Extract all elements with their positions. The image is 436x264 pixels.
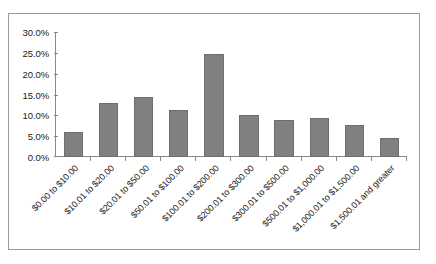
bar-slot: [231, 32, 266, 157]
bar: [169, 110, 188, 158]
bar-slot: [126, 32, 161, 157]
bar: [380, 138, 399, 157]
y-axis-tick-label: 25.0%: [23, 47, 49, 58]
bar: [99, 103, 118, 157]
y-axis-tick-label: 5.0%: [28, 131, 49, 142]
bar-slot: [302, 32, 337, 157]
y-axis-tick-label: 20.0%: [23, 68, 49, 79]
x-axis-label-cell: $1,500.01 and greater: [372, 161, 407, 249]
y-axis: 0.0%5.0%10.0%15.0%20.0%25.0%30.0%: [8, 32, 54, 157]
bar: [345, 125, 364, 157]
bar: [64, 132, 83, 157]
x-axis-labels: $0.00 to $10.00$10.01 to $20.00$20.01 to…: [56, 161, 407, 249]
bar: [239, 115, 258, 157]
bar-slot: [372, 32, 407, 157]
y-axis-tick-label: 15.0%: [23, 89, 49, 100]
bar: [134, 97, 153, 157]
bar-slot: [337, 32, 372, 157]
bar-series: [56, 32, 407, 157]
bar-slot: [267, 32, 302, 157]
bar-slot: [56, 32, 91, 157]
y-axis-tick-label: 30.0%: [23, 27, 49, 38]
bar-slot: [161, 32, 196, 157]
bar: [274, 120, 293, 158]
y-axis-tick-label: 10.0%: [23, 110, 49, 121]
bar: [204, 54, 223, 157]
y-axis-tick-label: 0.0%: [28, 152, 49, 163]
bar: [310, 118, 329, 157]
bar-slot: [196, 32, 231, 157]
bar-slot: [91, 32, 126, 157]
